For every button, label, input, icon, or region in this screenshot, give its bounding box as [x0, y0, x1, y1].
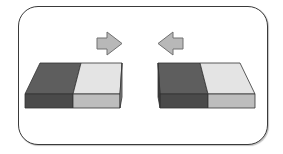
- diagram-scene: [0, 0, 283, 154]
- arrow-left-icon: [158, 32, 183, 55]
- arrow-right-icon: [97, 32, 122, 55]
- left-block: [25, 63, 122, 108]
- right-block: [158, 63, 255, 108]
